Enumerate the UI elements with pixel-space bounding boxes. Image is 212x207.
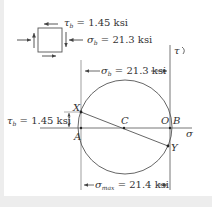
point-c — [123, 127, 125, 129]
mohr-circle-diagram: τb = 1.45 ksi σb = 21.3 ksi τ σ σb = 21.… — [0, 0, 212, 207]
left-dimension-label: τb = 1.45 ksi — [7, 115, 71, 127]
point-b — [169, 127, 171, 129]
mohr-circle — [78, 80, 172, 174]
label-o: O — [161, 115, 169, 126]
label-b: B — [172, 115, 180, 126]
rotation-arrow-icon — [182, 47, 184, 54]
element-square — [38, 28, 62, 52]
bottom-dimension-label: σmax = 21.4 ksi — [95, 179, 169, 191]
label-y: Y — [171, 142, 179, 153]
top-dimension-label: σb = 21.3 ksi — [101, 65, 166, 77]
point-a — [80, 127, 82, 129]
shear-stress-label: τb = 1.45 ksi — [64, 17, 128, 29]
label-x: X — [72, 102, 81, 113]
sigma-axis-label: σ — [186, 128, 194, 139]
label-c: C — [121, 115, 129, 126]
tau-axis-label: τ — [174, 45, 180, 56]
label-a: A — [73, 131, 81, 142]
point-y — [167, 145, 170, 148]
normal-stress-label: σb = 21.3 ksi — [87, 34, 152, 46]
